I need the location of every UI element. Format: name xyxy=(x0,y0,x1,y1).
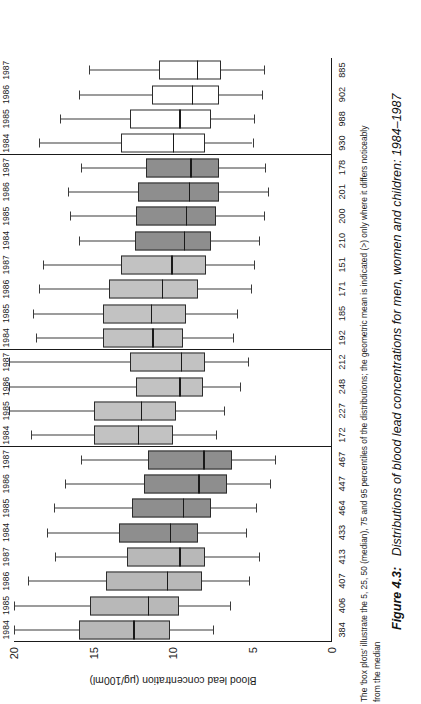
median-line xyxy=(192,85,193,104)
boxplot xyxy=(14,82,332,106)
median-line xyxy=(198,474,199,493)
axis-tick-label: 0 xyxy=(327,647,338,653)
boxplot xyxy=(14,593,332,617)
whisker-cap-upper xyxy=(54,504,55,513)
year-label: 1985 xyxy=(2,401,11,420)
box-iqr xyxy=(109,280,198,299)
year-label: 1984 xyxy=(2,134,11,153)
median-line xyxy=(179,377,180,396)
median-line xyxy=(162,280,163,299)
boxplot xyxy=(14,228,332,252)
year-label: 1985 xyxy=(2,304,11,323)
whisker-cap-upper xyxy=(14,625,15,634)
whisker-line xyxy=(9,362,248,363)
whisker-cap-lower xyxy=(265,163,266,172)
sample-size-label: 902 xyxy=(338,87,347,102)
boxplot xyxy=(14,301,332,325)
boxplot xyxy=(14,569,332,593)
boxplot xyxy=(14,350,332,374)
year-label: 1984 xyxy=(2,231,11,250)
whisker-cap-lower xyxy=(264,66,265,75)
whisker-cap-upper xyxy=(14,601,15,610)
median-line xyxy=(179,109,180,128)
box-iqr xyxy=(152,85,219,104)
whisker-cap-lower xyxy=(253,139,254,148)
box-iqr xyxy=(103,328,183,347)
median-line xyxy=(167,572,168,591)
axis-tick-label: 20 xyxy=(9,647,20,659)
figure-caption: Figure 4.3: Distributions of blood lead … xyxy=(390,94,404,630)
box-iqr xyxy=(130,353,205,372)
median-line xyxy=(197,61,198,80)
boxplot xyxy=(14,472,332,496)
whisker-cap-lower xyxy=(216,431,217,440)
box-iqr xyxy=(103,304,186,323)
box-iqr xyxy=(94,426,174,445)
year-label: 1986 xyxy=(2,182,11,201)
year-label: 1985 xyxy=(2,207,11,226)
sample-size-label: 192 xyxy=(338,330,347,345)
whisker-cap-lower xyxy=(268,187,269,196)
sample-size-label: 413 xyxy=(338,549,347,564)
year-label: 1987 xyxy=(2,61,11,80)
whisker-cap-lower xyxy=(275,455,276,464)
sample-size-label: 212 xyxy=(338,355,347,370)
sample-size-label: 172 xyxy=(338,428,347,443)
whisker-cap-lower xyxy=(230,601,231,610)
box-iqr xyxy=(79,620,170,639)
sample-size-label: 178 xyxy=(338,160,347,175)
box-iqr xyxy=(119,523,199,542)
sample-size-label: 384 xyxy=(338,622,347,637)
median-line xyxy=(141,401,142,420)
axis-tick-label: 10 xyxy=(168,647,179,659)
sample-size-label: 210 xyxy=(338,233,347,248)
boxplot xyxy=(14,447,332,471)
year-label: 1985 xyxy=(2,596,11,615)
year-label: 1984 xyxy=(2,426,11,445)
boxplot xyxy=(14,204,332,228)
y-axis-title: Blood lead concentration (μg/100ml) xyxy=(89,675,256,686)
whisker-cap-upper xyxy=(81,455,82,464)
year-label: 1986 xyxy=(2,280,11,299)
boxplot xyxy=(14,180,332,204)
whisker-cap-upper xyxy=(43,260,44,269)
whisker-cap-lower xyxy=(240,382,241,391)
boxplot xyxy=(14,374,332,398)
whisker-cap-lower xyxy=(237,309,238,318)
boxplot xyxy=(14,520,332,544)
boxplot xyxy=(14,253,332,277)
whisker-cap-upper xyxy=(79,90,80,99)
year-label: 1987 xyxy=(2,255,11,274)
axis-tick-label: 5 xyxy=(247,647,258,653)
whisker-cap-lower xyxy=(213,625,214,634)
group-divider xyxy=(0,154,332,155)
whisker-cap-upper xyxy=(39,285,40,294)
whisker-cap-upper xyxy=(60,114,61,123)
median-line xyxy=(152,328,153,347)
box-iqr xyxy=(132,499,212,518)
box-iqr xyxy=(138,182,219,201)
box-iqr xyxy=(136,207,216,226)
sample-size-label: 227 xyxy=(338,403,347,418)
figure-note-line1: The 'box plots' illustrate the 5, 25, 50… xyxy=(358,2,371,702)
median-line xyxy=(173,134,174,153)
whisker-cap-upper xyxy=(68,187,69,196)
sample-size-label: 201 xyxy=(338,184,347,199)
year-label: 1986 xyxy=(2,474,11,493)
median-line xyxy=(183,499,184,518)
sample-size-label: 200 xyxy=(338,209,347,224)
sample-size-label: 988 xyxy=(338,111,347,126)
sample-size-label: 248 xyxy=(338,379,347,394)
year-label: 1987 xyxy=(2,353,11,372)
year-label: 1985 xyxy=(2,109,11,128)
whisker-cap-upper xyxy=(31,431,32,440)
box-iqr xyxy=(144,474,227,493)
sample-size-label: 433 xyxy=(338,525,347,540)
figure-number: Figure 4.3: xyxy=(390,567,404,630)
figure-body: 20151050 1984198519861987198419851986198… xyxy=(0,0,421,704)
whisker-cap-lower xyxy=(264,212,265,221)
whisker-cap-lower xyxy=(254,260,255,269)
median-line xyxy=(179,547,180,566)
group-divider xyxy=(0,446,332,447)
boxplot xyxy=(14,107,332,131)
